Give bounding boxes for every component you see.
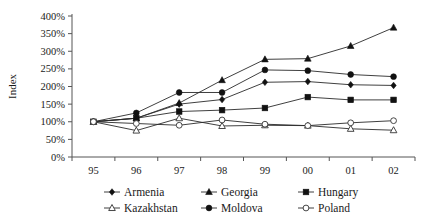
- y-tick-label: 50%: [46, 134, 66, 145]
- filled-triangle-marker: [219, 77, 226, 83]
- legend-label: Hungary: [318, 186, 358, 199]
- filled-square-marker: [305, 94, 311, 100]
- filled-diamond-marker: [348, 81, 353, 88]
- x-tick-label: 95: [88, 165, 99, 176]
- filled-diamond-marker: [219, 96, 224, 103]
- y-tick-label: 0%: [51, 152, 65, 163]
- y-tick-label: 300%: [41, 46, 66, 57]
- filled-square-marker: [262, 105, 268, 111]
- legend-item-poland[interactable]: Poland: [298, 202, 350, 214]
- filled-circle-marker: [262, 67, 268, 73]
- y-tick-label: 150%: [41, 99, 66, 110]
- filled-triangle-marker: [262, 56, 269, 62]
- legend-label: Poland: [318, 202, 350, 214]
- open-triangle-marker: [176, 115, 183, 121]
- y-tick-label: 350%: [41, 28, 66, 39]
- legend-item-georgia[interactable]: Georgia: [201, 186, 258, 199]
- filled-diamond-marker: [391, 82, 396, 89]
- x-tick-label: 02: [388, 165, 399, 176]
- y-tick-group: 0%50%100%150%200%250%300%350%400%: [41, 11, 73, 163]
- filled-square-marker: [176, 109, 182, 115]
- legend-label: Kazakhstan: [124, 202, 178, 214]
- filled-circle-marker: [348, 72, 354, 78]
- y-tick-label: 200%: [41, 81, 66, 92]
- open-circle-marker: [262, 121, 268, 127]
- legend-item-kazakhstan[interactable]: Kazakhstan: [104, 202, 178, 214]
- x-tick-label: 99: [260, 165, 271, 176]
- y-tick-label: 250%: [41, 63, 66, 74]
- open-circle-marker: [303, 205, 309, 211]
- filled-triangle-marker: [390, 24, 397, 30]
- filled-triangle-marker: [347, 42, 354, 48]
- filled-circle-marker: [133, 110, 139, 116]
- filled-diamond-marker: [109, 189, 114, 196]
- open-circle-marker: [348, 120, 354, 126]
- open-circle-marker: [176, 122, 182, 128]
- chart-legend: ArmeniaGeorgiaHungaryKazakhstanMoldovaPo…: [104, 186, 358, 214]
- series-moldova: [91, 67, 397, 125]
- axes-group: [72, 14, 415, 157]
- x-tick-label: 98: [217, 165, 228, 176]
- y-axis-title: Index: [6, 73, 18, 99]
- x-tick-label: 97: [174, 165, 185, 176]
- x-tick-label: 01: [345, 165, 356, 176]
- filled-circle-marker: [176, 90, 182, 96]
- legend-item-moldova[interactable]: Moldova: [201, 202, 263, 214]
- open-circle-marker: [91, 119, 97, 125]
- legend-label: Armenia: [124, 186, 164, 198]
- filled-square-marker: [348, 97, 354, 103]
- open-circle-marker: [305, 123, 311, 129]
- y-tick-label: 100%: [41, 116, 66, 127]
- filled-triangle-marker: [206, 189, 213, 195]
- index-line-chart: 0%50%100%150%200%250%300%350%400%9596979…: [0, 0, 435, 220]
- filled-square-marker: [219, 107, 225, 113]
- filled-diamond-marker: [262, 79, 267, 86]
- open-circle-marker: [391, 118, 397, 124]
- filled-circle-marker: [391, 74, 397, 80]
- legend-label: Moldova: [221, 202, 263, 214]
- filled-circle-marker: [305, 68, 311, 74]
- open-circle-marker: [219, 117, 225, 123]
- x-tick-label: 00: [303, 165, 314, 176]
- filled-triangle-marker: [176, 100, 183, 106]
- open-triangle-marker: [109, 205, 116, 211]
- open-circle-marker: [133, 121, 139, 127]
- y-tick-label: 400%: [41, 11, 66, 22]
- filled-diamond-marker: [305, 78, 310, 85]
- filled-square-marker: [303, 189, 309, 195]
- filled-circle-marker: [206, 205, 212, 211]
- legend-item-hungary[interactable]: Hungary: [298, 186, 358, 199]
- legend-label: Georgia: [221, 186, 258, 199]
- filled-circle-marker: [219, 90, 225, 96]
- chart-figure: 0%50%100%150%200%250%300%350%400%9596979…: [0, 0, 435, 220]
- x-tick-group: 9596979899000102: [72, 157, 415, 176]
- x-tick-label: 96: [131, 165, 142, 176]
- legend-item-armenia[interactable]: Armenia: [104, 186, 164, 198]
- filled-square-marker: [391, 97, 397, 103]
